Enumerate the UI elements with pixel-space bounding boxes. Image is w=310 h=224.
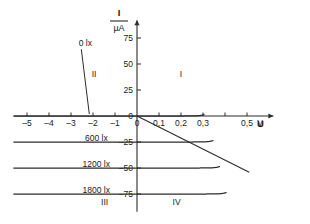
characteristic-curve bbox=[14, 141, 213, 142]
axis-names-group: UIµA bbox=[110, 7, 264, 129]
photodiode-iv-characteristic-chart: –5–4–3–2–100,10,20,30,5V7550250–25–50–75… bbox=[0, 0, 310, 224]
y-axis-tick-label: 75 bbox=[124, 33, 134, 43]
load-line-group bbox=[137, 116, 249, 172]
x-axis-tick-label: –1 bbox=[110, 118, 120, 128]
x-axis-name: U bbox=[257, 118, 264, 129]
annotation-leader-line bbox=[81, 49, 89, 114]
series-label: 1200 lx bbox=[83, 159, 111, 169]
quadrant-label: IV bbox=[173, 197, 181, 207]
load-line bbox=[137, 116, 249, 172]
x-axis-tick-label: –2 bbox=[88, 118, 98, 128]
y-axis-unit-label: µA bbox=[113, 23, 124, 33]
quadrant-label: II bbox=[92, 69, 97, 79]
x-axis-tick-label: –3 bbox=[66, 118, 76, 128]
x-axis-tick-label: 0,2 bbox=[175, 118, 187, 128]
series-label: 0 lx bbox=[79, 38, 93, 48]
chart-canvas: –5–4–3–2–100,10,20,30,5V7550250–25–50–75… bbox=[0, 0, 310, 224]
y-axis-tick-label: 50 bbox=[124, 59, 134, 69]
x-axis-tick-label: –4 bbox=[44, 118, 54, 128]
series-label: 1800 lx bbox=[83, 185, 111, 195]
characteristic-curve bbox=[14, 115, 204, 116]
characteristic-curve bbox=[14, 167, 220, 168]
x-axis-tick-label: 0 bbox=[135, 118, 140, 128]
x-axis-tick-label: 0,3 bbox=[197, 118, 209, 128]
quadrant-label: III bbox=[101, 197, 108, 207]
x-axis-arrow bbox=[268, 113, 273, 118]
y-axis-tick-label: 25 bbox=[124, 85, 134, 95]
y-axis-name: I bbox=[118, 7, 121, 18]
series-label: 600 lx bbox=[85, 133, 108, 143]
y-axis-arrow bbox=[134, 20, 139, 25]
quadrant-label: I bbox=[180, 69, 182, 79]
x-axis-tick-label: 0,5 bbox=[241, 118, 253, 128]
x-axis-tick-label: –5 bbox=[22, 118, 32, 128]
